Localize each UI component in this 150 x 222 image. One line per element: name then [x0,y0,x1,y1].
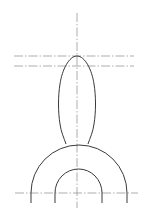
outer-arch [31,145,127,203]
inner-arch [55,169,102,203]
technical-drawing [0,0,150,222]
